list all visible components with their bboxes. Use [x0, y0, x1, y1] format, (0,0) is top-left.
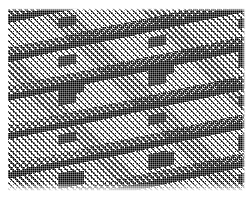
offset-block-clusters-layer — [8, 8, 246, 193]
fabric-swatch — [8, 8, 246, 193]
image-caption: Bilevel (1-bit) dithered scan of a woven… — [0, 0, 1, 1]
image-canvas: Bilevel (1-bit) dithered scan of a woven… — [0, 0, 246, 197]
